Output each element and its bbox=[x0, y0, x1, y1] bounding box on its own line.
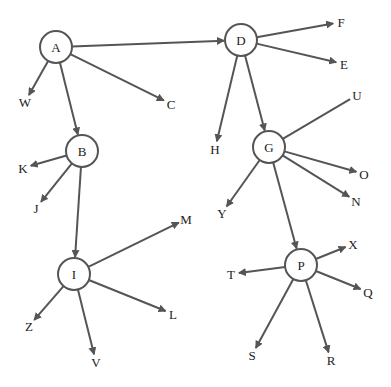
leaf-j: J bbox=[33, 201, 38, 216]
leaf-u: U bbox=[352, 88, 362, 103]
leaf-label: Y bbox=[217, 206, 227, 221]
leaf-label: Q bbox=[363, 285, 373, 300]
leaf-l: L bbox=[169, 307, 177, 322]
leaf-s: S bbox=[248, 348, 255, 363]
tree-diagram: ADBGIPWCFEHUONYKJMLZVTXQSR bbox=[0, 0, 391, 387]
leaf-x: X bbox=[348, 237, 358, 252]
edge-p-x bbox=[316, 247, 346, 259]
edge-p-r bbox=[306, 280, 329, 352]
leaf-label: O bbox=[359, 167, 368, 182]
leaf-m: M bbox=[180, 212, 192, 227]
leaf-label: F bbox=[337, 15, 344, 30]
edge-i-z bbox=[34, 286, 63, 320]
edge-d-e bbox=[257, 44, 337, 63]
leaf-z: Z bbox=[25, 319, 33, 334]
node-label: A bbox=[51, 40, 61, 55]
edge-i-l bbox=[89, 280, 166, 311]
edge-b-k bbox=[31, 155, 67, 165]
leaf-y: Y bbox=[217, 206, 227, 221]
leaf-c: C bbox=[167, 97, 176, 112]
leaf-w: W bbox=[19, 95, 32, 110]
leaf-k: K bbox=[18, 161, 28, 176]
edge-p-s bbox=[256, 279, 294, 348]
leaf-label: J bbox=[33, 201, 38, 216]
node-label: P bbox=[297, 258, 304, 273]
leaf-label: U bbox=[352, 88, 362, 103]
edge-g-o bbox=[284, 151, 356, 171]
leaf-label: R bbox=[327, 353, 336, 368]
leaf-label: M bbox=[180, 212, 192, 227]
leaf-label: K bbox=[18, 161, 28, 176]
edge-g-y bbox=[227, 160, 260, 206]
leaf-q: Q bbox=[363, 285, 373, 300]
edge-i-v bbox=[78, 290, 94, 355]
leaf-label: N bbox=[351, 194, 361, 209]
edge-d-h bbox=[217, 56, 237, 142]
leaf-label: V bbox=[91, 355, 101, 370]
edge-a-c bbox=[70, 54, 163, 100]
edge-d-f bbox=[257, 23, 333, 37]
edge-a-b bbox=[60, 63, 78, 135]
leaf-label: C bbox=[167, 97, 176, 112]
edge-p-q bbox=[316, 271, 361, 289]
edge-i-m bbox=[88, 223, 178, 267]
edge-g-p bbox=[273, 162, 296, 248]
edge-b-j bbox=[41, 163, 72, 201]
node-b: B bbox=[66, 135, 98, 167]
node-p: P bbox=[285, 249, 317, 281]
edge-g-n bbox=[283, 155, 350, 196]
node-label: B bbox=[78, 144, 87, 159]
leaf-label: S bbox=[248, 348, 255, 363]
leaf-label: E bbox=[340, 57, 348, 72]
node-label: I bbox=[72, 267, 76, 282]
edge-b-i bbox=[75, 167, 81, 257]
node-label: D bbox=[236, 33, 245, 48]
edge-a-w bbox=[29, 61, 48, 95]
leaf-t: T bbox=[227, 267, 235, 282]
leaf-label: W bbox=[19, 95, 32, 110]
leaf-r: R bbox=[327, 353, 336, 368]
leaf-h: H bbox=[210, 142, 219, 157]
leaf-f: F bbox=[337, 15, 344, 30]
leaf-label: L bbox=[169, 307, 177, 322]
node-a: A bbox=[40, 31, 72, 63]
edge-g-u bbox=[283, 99, 350, 139]
leaf-label: T bbox=[227, 267, 235, 282]
leaf-label: H bbox=[210, 142, 219, 157]
leaf-n: N bbox=[351, 194, 361, 209]
node-i: I bbox=[58, 258, 90, 290]
edge-a-d bbox=[72, 41, 224, 47]
edge-d-g bbox=[245, 55, 265, 130]
leaf-o: O bbox=[359, 167, 368, 182]
node-label: G bbox=[264, 140, 273, 155]
leaf-e: E bbox=[340, 57, 348, 72]
leaf-label: Z bbox=[25, 319, 33, 334]
edge-p-t bbox=[239, 267, 285, 273]
leaf-v: V bbox=[91, 355, 101, 370]
edges-layer bbox=[29, 23, 361, 354]
nodes-layer: ADBGIPWCFEHUONYKJMLZVTXQSR bbox=[18, 15, 373, 370]
node-g: G bbox=[253, 131, 285, 163]
leaf-label: X bbox=[348, 237, 358, 252]
node-d: D bbox=[225, 24, 257, 56]
